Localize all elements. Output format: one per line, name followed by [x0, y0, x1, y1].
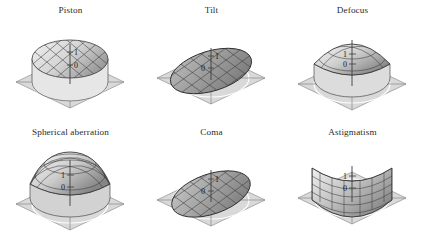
plot-piston: 1 0 [0, 16, 141, 123]
axis-tick-label-top: 1 [61, 171, 65, 180]
panel-title-astigmatism: Astigmatism [282, 127, 423, 137]
axis-tick-label-top: 1 [343, 172, 347, 181]
axis-tick-label-bottom: 0 [74, 61, 78, 70]
axis-tick-label-bottom: 0 [343, 60, 347, 69]
panel-spherical-aberration: Spherical aberration [0, 125, 141, 245]
axis-tick-label-top: 1 [215, 175, 219, 184]
panel-tilt: Tilt [141, 3, 282, 123]
axis-tick-label-bottom: 0 [201, 64, 205, 73]
axis-tick-label-bottom: 0 [343, 184, 347, 193]
aberration-figure: Piston [0, 0, 424, 245]
panel-title-defocus: Defocus [282, 5, 423, 15]
panel-defocus: Defocus [282, 3, 423, 123]
panel-piston: Piston [0, 3, 141, 123]
axis-tick-label-top: 1 [74, 48, 78, 57]
plot-defocus: 1 0 [282, 16, 423, 123]
panel-title-coma: Coma [141, 127, 282, 137]
plot-svg-coma: 1 0 [141, 138, 282, 245]
panel-title-spherical-aberration: Spherical aberration [0, 127, 141, 137]
axis-tick-label-top: 1 [215, 52, 219, 61]
plot-astigmatism: 1 0 [282, 138, 423, 245]
axis-tick-label-bottom: 0 [61, 183, 65, 192]
plot-coma: 1 0 [141, 138, 282, 245]
axis-tick-label-top: 1 [343, 50, 347, 59]
axis-tick-label-bottom: 0 [201, 187, 205, 196]
plot-tilt: 1 0 [141, 16, 282, 123]
panel-astigmatism: Astigmatism [282, 125, 423, 245]
plot-spherical-aberration: 1 0 [0, 138, 141, 245]
panel-title-tilt: Tilt [141, 5, 282, 15]
panel-coma: Coma [141, 125, 282, 245]
plot-svg-astigmatism: 1 0 [282, 138, 423, 245]
panel-title-piston: Piston [0, 5, 141, 15]
plot-svg-defocus: 1 0 [282, 16, 423, 123]
plot-svg-tilt: 1 0 [141, 16, 282, 123]
plot-svg-piston: 1 0 [0, 16, 141, 123]
plot-svg-spherical-aberration: 1 0 [0, 138, 141, 245]
